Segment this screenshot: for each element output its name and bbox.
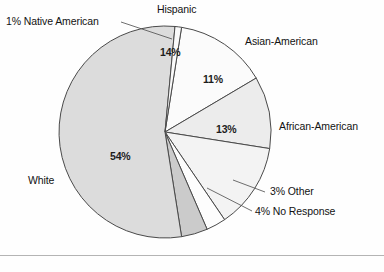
value-asian-american: 11% [203,73,223,85]
label-white: White [28,174,54,186]
value-hispanic: 14% [160,46,180,58]
value-african-american: 13% [216,123,236,135]
footer-divider [0,255,384,256]
label-native-american: 1% Native American [6,15,99,27]
pie-chart-canvas [0,0,384,272]
pie-chart-figure: 1% Native American Hispanic 14% Asian-Am… [0,0,384,272]
label-asian-american: Asian-American [245,35,318,47]
label-african-american: African-American [279,120,358,132]
value-white: 54% [110,150,130,162]
label-no-response: 4% No Response [255,205,335,217]
label-hispanic: Hispanic [157,3,196,15]
label-other: 3% Other [270,185,314,197]
